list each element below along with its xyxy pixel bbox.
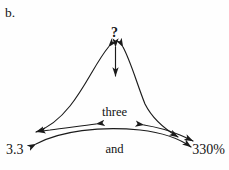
figure-container: b. ? three and three tenths 3.3 330%: [0, 0, 229, 170]
node-unknown: ?: [0, 26, 229, 40]
node-percent: 330%: [192, 143, 225, 157]
node-decimal: 3.3: [6, 143, 24, 157]
part-label: b.: [5, 6, 15, 20]
node-words-line-1: three: [0, 107, 229, 119]
